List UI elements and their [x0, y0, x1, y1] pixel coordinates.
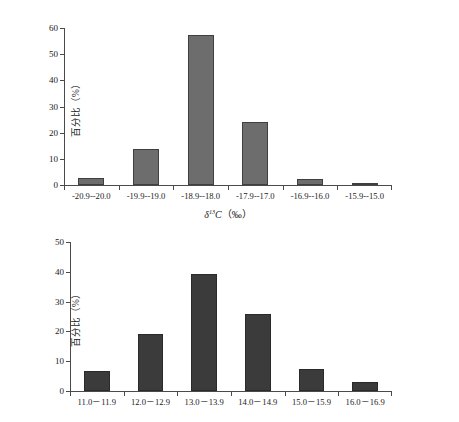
- x-tick-label: -17.9--17.0: [236, 192, 275, 201]
- x-tick-mark: [337, 186, 338, 190]
- y-tick-label: 60: [49, 24, 58, 33]
- y-tick-label: 20: [49, 128, 58, 137]
- bar: [138, 334, 164, 391]
- y-tick-mark: [60, 28, 64, 29]
- y-tick-label: 10: [49, 154, 58, 163]
- x-tick-mark: [119, 186, 120, 190]
- y-tick-label: 40: [55, 267, 64, 276]
- x-tick-label: 16.0－16.9: [346, 398, 385, 407]
- y-tick-mark: [66, 361, 70, 362]
- y-tick-label: 10: [55, 357, 64, 366]
- y-tick-label: 30: [49, 102, 58, 111]
- bar: [299, 369, 325, 391]
- y-tick-mark: [66, 242, 70, 243]
- permil-unit: （‰）: [222, 209, 252, 220]
- x-axis-title-top: δ13C（‰）: [64, 206, 392, 221]
- x-tick-mark: [64, 186, 65, 190]
- y-tick-label: 20: [55, 327, 64, 336]
- x-tick-mark: [173, 186, 174, 190]
- x-tick-mark: [285, 392, 286, 396]
- y-tick-label: 30: [55, 297, 64, 306]
- x-tick-label: -15.9--15.0: [345, 192, 384, 201]
- bar: [245, 314, 271, 391]
- x-tick-mark: [124, 392, 125, 396]
- y-tick-mark: [60, 54, 64, 55]
- y-tick-label: 40: [49, 76, 58, 85]
- x-tick-label: 13.0－13.9: [185, 398, 224, 407]
- bar: [191, 274, 217, 391]
- bar: [352, 382, 378, 391]
- y-tick-label: 0: [60, 387, 65, 396]
- plot-area-top: 0102030405060 -20.9--20.0-19.9--19.0-18.…: [64, 28, 392, 186]
- x-tick-labels-bottom: 11.0－11.912.0－12.913.0－13.914.0－14.915.0…: [70, 398, 392, 412]
- y-tick-label: 0: [54, 181, 59, 190]
- x-tick-label: -18.9--18.0: [181, 192, 220, 201]
- x-tick-mark: [177, 392, 178, 396]
- bar: [352, 183, 378, 185]
- x-tick-mark: [231, 392, 232, 396]
- x-tick-label: -19.9--19.0: [127, 192, 166, 201]
- y-tick-label: 50: [55, 238, 64, 247]
- x-tick-mark: [338, 392, 339, 396]
- y-tick-mark: [60, 107, 64, 108]
- y-axis-title-bottom: 百分比（%）: [68, 289, 82, 347]
- chart-top: 0102030405060 -20.9--20.0-19.9--19.0-18.…: [0, 0, 459, 222]
- x-tick-label: -20.9--20.0: [72, 192, 111, 201]
- x-tick-labels-top: -20.9--20.0-19.9--19.0-18.9--18.0-17.9--…: [64, 192, 392, 206]
- y-axis-line-top: [64, 28, 65, 186]
- element-symbol: C: [215, 209, 222, 220]
- bar: [242, 122, 268, 185]
- y-tick-mark: [60, 159, 64, 160]
- bar: [188, 35, 214, 185]
- y-tick-mark: [60, 80, 64, 81]
- y-tick-label: 50: [49, 50, 58, 59]
- chart-bottom: 01020304050 11.0－11.912.0－12.913.0－13.91…: [0, 222, 459, 422]
- x-tick-label: 11.0－11.9: [78, 398, 116, 407]
- y-axis-title-top: 百分比（%）: [68, 79, 82, 137]
- x-tick-label: -16.9--16.0: [291, 192, 330, 201]
- x-tick-mark: [391, 186, 392, 190]
- y-tick-mark: [60, 133, 64, 134]
- bar: [78, 178, 104, 185]
- plot-area-bottom: 01020304050 11.0－11.912.0－12.913.0－13.91…: [70, 242, 392, 392]
- x-tick-mark: [228, 186, 229, 190]
- bar: [297, 179, 323, 185]
- x-tick-label: 12.0－12.9: [131, 398, 170, 407]
- bar: [133, 149, 159, 185]
- bar: [84, 371, 110, 391]
- x-tick-mark: [283, 186, 284, 190]
- x-tick-label: 15.0－15.9: [292, 398, 331, 407]
- y-tick-mark: [66, 272, 70, 273]
- x-tick-mark: [70, 392, 71, 396]
- x-tick-label: 14.0－14.9: [238, 398, 277, 407]
- x-tick-mark: [391, 392, 392, 396]
